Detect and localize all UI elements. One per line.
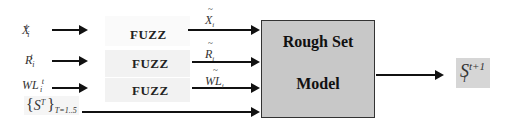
output-label: St+1i [460, 60, 488, 84]
fuzz-label-wl: FUZZ [132, 83, 169, 99]
input-x-sup: t [26, 22, 28, 31]
arrow-fuzz-wl-to-model [192, 87, 258, 89]
input-r-sub: i [32, 60, 34, 69]
arrow-fuzz-x-to-model [188, 29, 258, 31]
tilde-mark: ~ [208, 4, 213, 14]
rough-set-model-block: Rough Set Model [261, 20, 375, 118]
arrow-model-to-output [376, 74, 442, 76]
input-s-sup: T [41, 98, 45, 107]
model-title-line2: Model [262, 75, 374, 93]
input-r-sup: t [31, 52, 33, 61]
arrow-fuzz-r-to-model [192, 61, 258, 63]
fuzzified-r-sub: i [212, 55, 214, 63]
arrow-wl-to-fuzz [52, 87, 86, 89]
input-label-x: Xit [22, 22, 32, 39]
model-title-line1: Rough Set [262, 33, 374, 51]
arrow-s-to-model [82, 111, 258, 113]
fuzz-label-r: FUZZ [132, 56, 169, 72]
input-s-range: T=1..5 [55, 106, 77, 115]
output-sub: i [463, 72, 466, 84]
input-x-sub: i [27, 30, 29, 39]
output-sup: t+1 [469, 60, 485, 72]
brace-open: { [26, 96, 34, 113]
fuzzified-x-label: ~Xi [205, 13, 214, 29]
arrow-r-to-fuzz [52, 60, 86, 62]
input-wl-base: WL [22, 78, 39, 92]
brace-close: } [47, 96, 55, 113]
tilde-mark: ~ [208, 38, 213, 48]
input-wl-sup: t [42, 77, 44, 86]
input-label-wl: WLti [22, 77, 46, 94]
input-s-base: S [34, 98, 41, 113]
tilde-mark: ~ [213, 65, 218, 75]
fuzzified-wl-label: ~WLi [205, 74, 224, 90]
input-label-r: Rit [25, 52, 37, 69]
fuzzified-r-label: ~Ri [205, 47, 214, 63]
input-wl-sub: i [40, 85, 42, 94]
fuzz-label-x: FUZZ [130, 27, 167, 43]
input-label-s-set: {ST}T=1..5 [24, 96, 79, 115]
arrow-x-to-fuzz [52, 29, 86, 31]
fuzzified-x-sub: i [212, 21, 214, 29]
fuzzified-wl-sub: i [222, 82, 224, 90]
fuzzified-wl-base: WL [205, 74, 222, 88]
